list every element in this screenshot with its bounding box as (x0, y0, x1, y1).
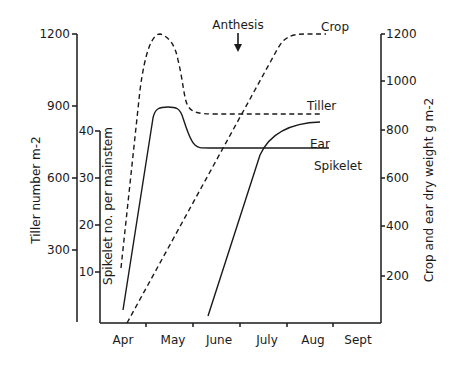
chart: 1200 900 600 300 Tiller number m-2 40 30… (0, 0, 457, 368)
spikelet-axis-label: Spikelet no. per mainstem (101, 127, 115, 285)
tick-label: 400 (386, 219, 409, 233)
tick-label: 10 (79, 265, 94, 279)
label-crop: Crop (321, 20, 349, 34)
tick-label: 1200 (386, 27, 417, 41)
dry-weight-axis-label: Crop and ear dry weight g m-2 (422, 98, 436, 283)
month-label: May (161, 333, 186, 347)
dry-weight-axis: 1200 1000 800 600 400 200 Crop and ear d… (381, 27, 436, 323)
tick-label: 800 (386, 123, 409, 137)
tick-label: 900 (47, 99, 70, 113)
tick-label: 600 (386, 171, 409, 185)
month-label: Apr (113, 333, 134, 347)
series-spikelet (123, 107, 329, 310)
x-axis: Apr May June July Aug Sept (100, 323, 381, 347)
tick-label: 1000 (386, 74, 417, 88)
tick-label: 600 (47, 171, 70, 185)
tick-label: 200 (386, 269, 409, 283)
spikelet-axis: 40 30 20 10 Spikelet no. per mainstem (79, 124, 115, 323)
tick-label: 300 (47, 243, 70, 257)
tiller-axis-label: Tiller number m-2 (29, 136, 43, 244)
tick-label: 20 (79, 218, 94, 232)
anthesis-label: Anthesis (212, 18, 263, 32)
month-label: June (205, 333, 232, 347)
tick-label: 40 (79, 124, 94, 138)
tiller-axis: 1200 900 600 300 Tiller number m-2 (29, 27, 77, 322)
series-crop (127, 34, 326, 323)
label-ear: Ear (310, 137, 330, 151)
tick-label: 1200 (39, 27, 70, 41)
month-label: July (255, 333, 278, 347)
label-spikelet: Spikelet (314, 159, 362, 173)
down-arrow-icon (234, 33, 242, 52)
series-ear (208, 122, 320, 316)
label-tiller: Tiller (306, 99, 336, 113)
month-label: Sept (344, 333, 372, 347)
tick-label: 30 (79, 171, 94, 185)
month-label: Aug (301, 333, 324, 347)
